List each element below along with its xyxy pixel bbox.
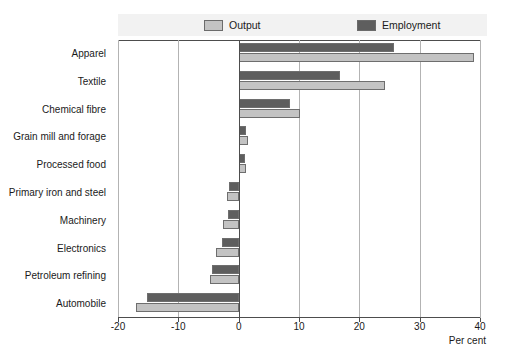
bar-employment: [147, 293, 239, 302]
bar-row: [118, 123, 480, 151]
bar-row: [118, 207, 480, 235]
bar-row: [118, 235, 480, 263]
category-label: Textile: [78, 77, 106, 87]
bar-output: [239, 109, 301, 118]
legend-item-employment: Employment: [357, 20, 440, 31]
bar-row: [118, 68, 480, 96]
x-tick-label: -10: [171, 322, 185, 332]
bar-row: [118, 290, 480, 318]
legend-item-output: Output: [204, 20, 261, 31]
bar-row: [118, 262, 480, 290]
x-tick-label: 30: [414, 322, 425, 332]
category-label: Chemical fibre: [42, 105, 106, 115]
bar-output: [216, 248, 239, 257]
category-label: Petroleum refining: [25, 271, 106, 281]
legend-label-employment: Employment: [382, 20, 440, 31]
horizontal-bar-chart: Output Employment ApparelTextileChemical…: [0, 0, 508, 355]
bar-output: [223, 220, 239, 229]
plot-area: [118, 40, 480, 318]
bar-row: [118, 96, 480, 124]
bar-row: [118, 179, 480, 207]
bar-output: [239, 53, 474, 62]
bar-employment: [212, 265, 239, 274]
category-label: Apparel: [72, 49, 106, 59]
zero-line: [239, 40, 240, 318]
x-tick-label: 40: [474, 322, 485, 332]
bar-rows: [118, 40, 480, 318]
x-axis-tick-labels: -20-10010203040: [118, 322, 480, 336]
bar-output: [136, 303, 239, 312]
bar-employment: [222, 238, 239, 247]
chart-legend: Output Employment: [118, 14, 487, 36]
bar-row: [118, 151, 480, 179]
bar-output: [239, 81, 385, 90]
bar-employment: [239, 126, 247, 135]
bar-employment: [228, 210, 239, 219]
category-label: Electronics: [57, 244, 106, 254]
bar-employment: [239, 71, 340, 80]
category-label: Grain mill and forage: [13, 132, 106, 142]
x-tick-label: 10: [293, 322, 304, 332]
category-label: Processed food: [37, 160, 107, 170]
bar-employment: [239, 43, 395, 52]
x-tick-label: -20: [111, 322, 125, 332]
x-tick-label: 0: [236, 322, 242, 332]
legend-swatch-output: [204, 20, 223, 31]
legend-swatch-employment: [357, 20, 376, 31]
bar-employment: [239, 99, 290, 108]
legend-label-output: Output: [229, 20, 261, 31]
bar-output: [227, 192, 238, 201]
category-axis-labels: ApparelTextileChemical fibreGrain mill a…: [0, 40, 112, 318]
bar-employment: [229, 182, 239, 191]
x-tick-label: 20: [354, 322, 365, 332]
bar-row: [118, 40, 480, 68]
category-label: Machinery: [60, 216, 106, 226]
bar-output: [239, 164, 247, 173]
gridline: [480, 40, 481, 318]
category-label: Primary iron and steel: [9, 188, 106, 198]
bar-output: [210, 275, 239, 284]
category-label: Automobile: [56, 299, 106, 309]
bar-output: [239, 136, 248, 145]
x-axis-title: Per cent: [449, 336, 486, 346]
